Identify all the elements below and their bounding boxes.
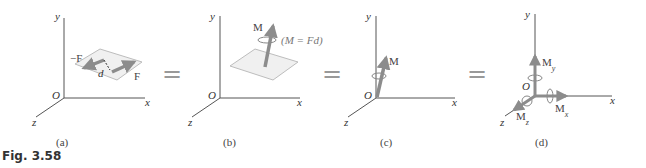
y-axis-label: y — [54, 10, 60, 22]
moment-y-label: My — [542, 56, 556, 73]
x-axis-label: x — [296, 96, 302, 108]
moment-label: M — [389, 55, 399, 67]
force-neg-label: −F — [70, 52, 82, 64]
figure-caption: Fig. 3.58 — [2, 149, 61, 163]
x-axis-label: x — [144, 96, 150, 108]
axes-c — [348, 16, 455, 117]
z-axis-label: z — [499, 116, 505, 128]
moment-x-label: Mx — [555, 102, 569, 119]
origin-label: O — [208, 89, 216, 101]
panel-d: y x z O My Mx Mz (d) — [499, 8, 615, 149]
axes-d — [505, 14, 612, 116]
z-axis-label: z — [343, 116, 349, 128]
moment-z-label: Mz — [516, 110, 530, 127]
panel-label-b: (b) — [223, 136, 236, 149]
panel-label-d: (d) — [535, 136, 548, 149]
panel-c: y x z O M (c) — [343, 10, 457, 149]
panel-b: y x z O M (M = Fd) (b) — [187, 10, 323, 149]
y-axis-label: y — [524, 8, 530, 20]
rotation-icon — [258, 37, 276, 43]
panel-label-c: (c) — [380, 136, 393, 149]
origin-label: O — [52, 89, 60, 101]
panel-label-a: (a) — [56, 136, 69, 149]
distance-label: d — [98, 67, 104, 79]
moment-label: M — [253, 21, 263, 33]
x-axis-label: x — [609, 94, 615, 106]
y-axis-label: y — [209, 10, 215, 22]
y-axis-label: y — [365, 10, 371, 22]
equals-sign-2: = — [322, 60, 342, 88]
equals-sign-1: = — [162, 60, 182, 88]
z-axis-label: z — [31, 116, 37, 128]
equals-sign-3: = — [467, 60, 487, 88]
x-axis-label: x — [451, 96, 457, 108]
origin-label: O — [522, 80, 530, 92]
figure-3-58: y x z O −F F d (a) = y x z O M (M = Fd) … — [0, 0, 646, 168]
moment-equation: (M = Fd) — [281, 34, 323, 47]
origin-label: O — [364, 89, 372, 101]
panel-a: y x z O −F F d (a) — [31, 10, 150, 149]
force-pos-label: F — [134, 70, 140, 82]
z-axis-label: z — [187, 116, 193, 128]
